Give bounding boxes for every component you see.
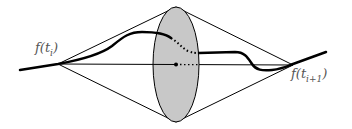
label-f-ti1-func: f(t — [291, 66, 306, 81]
label-f-ti: f(ti) — [35, 40, 58, 58]
label-f-ti1-sub: i+1 — [306, 74, 322, 84]
axis-line-left — [58, 64, 176, 65]
label-f-ti1: f(ti+1) — [291, 66, 327, 84]
label-f-ti-func: f(t — [35, 40, 50, 55]
label-f-ti1-close: ) — [322, 66, 327, 81]
label-f-ti-close: ) — [53, 40, 58, 55]
tube-diagram — [0, 0, 352, 129]
center-point — [174, 63, 178, 67]
